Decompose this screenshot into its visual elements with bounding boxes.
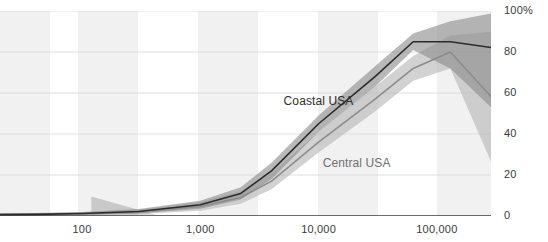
x-tick-100: 100 (73, 224, 92, 235)
y-tick-0: 0 (504, 210, 510, 221)
series-label-central: Central USA (323, 156, 391, 170)
plot-area: Coastal USA Central USA (0, 11, 491, 216)
y-tick-60: 60 (504, 87, 517, 98)
y-tick-80: 80 (504, 46, 517, 57)
x-tick-10000: 10,000 (301, 224, 336, 235)
chart-root: Coastal USA Central USA 020406080100% 10… (0, 0, 548, 242)
x-tick-1000: 1,000 (186, 224, 215, 235)
y-tick-40: 40 (504, 128, 517, 139)
x-tick-100000: 100,000 (416, 224, 457, 235)
chart-svg (0, 11, 491, 216)
y-tick-100: 100% (504, 5, 533, 16)
top-clipped-caption (0, 0, 548, 3)
y-tick-20: 20 (504, 169, 517, 180)
series-label-coastal: Coastal USA (284, 94, 354, 108)
